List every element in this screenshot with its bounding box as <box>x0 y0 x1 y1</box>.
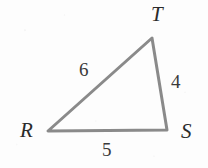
triangle-outline <box>48 38 167 131</box>
vertex-label-s: S <box>181 121 192 142</box>
vertex-label-r: R <box>20 120 33 141</box>
side-length-ts: 4 <box>171 72 181 91</box>
side-length-rs: 5 <box>102 140 112 159</box>
geometry-figure: T R S 6 4 5 <box>0 0 208 168</box>
vertex-label-t: T <box>151 4 163 25</box>
side-length-rt: 6 <box>79 60 89 79</box>
